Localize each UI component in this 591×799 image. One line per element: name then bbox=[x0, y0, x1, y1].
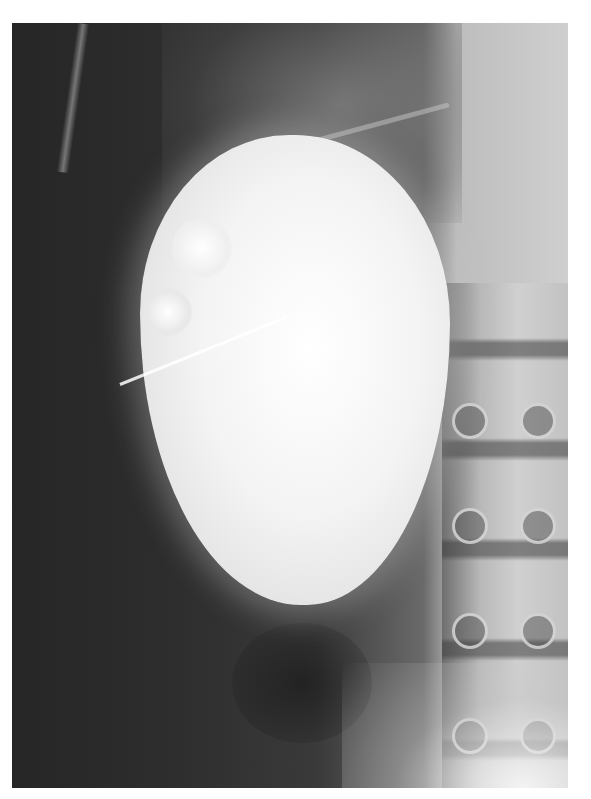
vertebra-pedicle bbox=[520, 613, 556, 649]
vertebra-pedicle bbox=[520, 508, 556, 544]
vertebra-pedicle bbox=[452, 508, 488, 544]
vertebra-pedicle bbox=[452, 403, 488, 439]
pelvic-bone-brightness bbox=[342, 663, 568, 788]
calyx-upper bbox=[172, 218, 232, 278]
xray-image bbox=[12, 23, 568, 788]
calyx-lower bbox=[144, 288, 192, 336]
vertebra-pedicle bbox=[452, 613, 488, 649]
vertebra-pedicle bbox=[520, 403, 556, 439]
